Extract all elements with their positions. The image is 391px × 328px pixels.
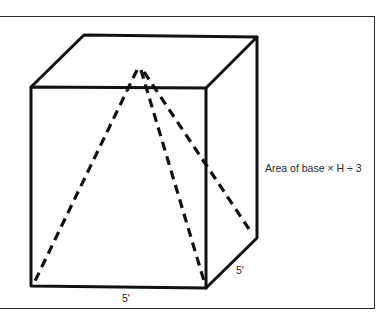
cube-front-face bbox=[31, 87, 206, 288]
front-width-label: 5' bbox=[122, 292, 130, 304]
cube-top-face bbox=[31, 35, 257, 88]
side-depth-label: 5' bbox=[236, 264, 244, 276]
cube-right-face bbox=[206, 37, 257, 288]
pyramid-edge-left bbox=[35, 70, 137, 281]
pyramid-edge-back-right bbox=[144, 72, 249, 229]
formula-label: Area of base × H ÷ 3 bbox=[265, 162, 362, 174]
pyramid-edge-front-right bbox=[141, 70, 204, 281]
pyramid-edges bbox=[35, 70, 249, 281]
